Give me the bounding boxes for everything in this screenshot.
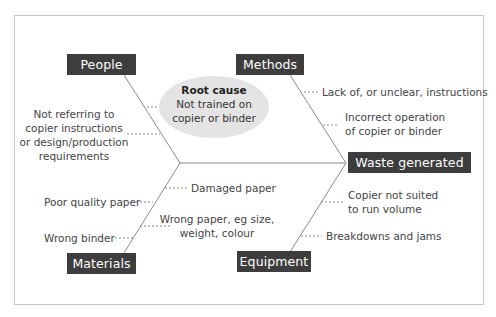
category-methods: Methods	[236, 54, 304, 75]
category-equipment-label: Equipment	[240, 254, 309, 269]
cause-text: to run volume	[348, 202, 438, 216]
cause-text: copier instructions	[18, 121, 130, 135]
cause-text: Wrong binder	[44, 231, 115, 245]
cause-text: Incorrect operation	[345, 110, 445, 124]
category-methods-label: Methods	[243, 57, 297, 72]
cause-text: or design/production	[18, 135, 130, 149]
equipment-cause-1: Copier not suited to run volume	[348, 188, 438, 216]
root-cause-text: Not trained on	[159, 97, 269, 111]
people-cause-1: Not referring to copier instructions or …	[18, 107, 130, 163]
category-materials: Materials	[67, 253, 136, 274]
cause-text: Copier not suited	[348, 188, 438, 202]
cause-text: Damaged paper	[191, 181, 276, 195]
cause-text: Breakdowns and jams	[326, 229, 442, 243]
effect-label: Waste generated	[355, 155, 463, 170]
category-equipment: Equipment	[237, 251, 311, 272]
materials-cause-4: Wrong binder	[44, 231, 115, 245]
cause-text: Not referring to	[18, 107, 130, 121]
cause-text: Lack of, or unclear, instructions	[322, 85, 488, 99]
root-cause: Root cause Not trained on copier or bind…	[159, 83, 269, 125]
effect-box: Waste generated	[348, 152, 471, 173]
root-cause-text: copier or binder	[159, 111, 269, 125]
cause-text: Wrong paper, eg size,	[158, 212, 276, 226]
materials-cause-1: Damaged paper	[191, 181, 276, 195]
cause-text: of copier or binder	[345, 124, 445, 138]
cause-text: requirements	[18, 149, 130, 163]
category-materials-label: Materials	[72, 256, 130, 271]
materials-cause-2: Poor quality paper	[44, 195, 140, 209]
methods-cause-2: Incorrect operation of copier or binder	[345, 110, 445, 138]
methods-cause-1: Lack of, or unclear, instructions	[322, 85, 488, 99]
equipment-cause-2: Breakdowns and jams	[326, 229, 442, 243]
category-people: People	[67, 54, 136, 75]
category-people-label: People	[80, 57, 122, 72]
cause-text: weight, colour	[158, 226, 276, 240]
materials-cause-3: Wrong paper, eg size, weight, colour	[158, 212, 276, 240]
root-cause-title: Root cause	[159, 83, 269, 97]
cause-text: Poor quality paper	[44, 195, 140, 209]
